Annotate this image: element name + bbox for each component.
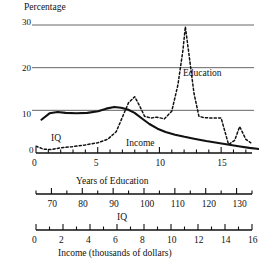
iq-axis-tick-100: 100 — [140, 199, 154, 209]
income-axis-tick-14: 14 — [221, 235, 231, 245]
iq-axis-tick-90: 90 — [109, 199, 119, 209]
education-axis-tick-5: 5 — [94, 158, 99, 168]
series-label-income: Income — [126, 138, 155, 148]
income-axis-tick-8: 8 — [140, 235, 145, 245]
education-axis-tick-10: 10 — [155, 158, 165, 168]
iq-axis-tick-70: 70 — [47, 199, 57, 209]
income-axis-tick-0: 0 — [32, 235, 37, 245]
income-axis-tick-10: 10 — [167, 235, 177, 245]
income-axis-tick-6: 6 — [113, 235, 118, 245]
y-tick-label-20: 20 — [22, 63, 31, 73]
data-curves — [0, 27, 259, 152]
income-axis-title: Income (thousands of dollars) — [58, 248, 172, 258]
education-axis-title: Years of Education — [76, 176, 148, 186]
income-axis-tick-4: 4 — [86, 235, 91, 245]
chart-figure: Percentage 30 20 10 0 Education IQ Incom… — [0, 0, 259, 262]
y-tick-label-30: 30 — [22, 17, 31, 27]
plot-canvas — [0, 0, 259, 262]
income-axis-tick-12: 12 — [194, 235, 204, 245]
education-axis-tick-15: 15 — [217, 158, 227, 168]
iq-axis-tick-110: 110 — [171, 199, 185, 209]
y-tick-label-10: 10 — [22, 109, 31, 119]
iq-axis-tick-130: 130 — [233, 199, 247, 209]
iq-axis-tick-80: 80 — [78, 199, 88, 209]
y-tick-label-0: 0 — [29, 145, 34, 155]
income-axis-tick-2: 2 — [59, 235, 64, 245]
series-label-iq: IQ — [51, 133, 61, 143]
iq-axis-title: IQ — [117, 212, 127, 222]
income-axis-tick-16: 16 — [248, 235, 258, 245]
iq-axis-tick-120: 120 — [202, 199, 216, 209]
curve-education — [36, 27, 251, 150]
education-axis-tick-0: 0 — [32, 158, 37, 168]
y-axis-title: Percentage — [24, 2, 66, 12]
series-label-education: Education — [183, 68, 222, 78]
